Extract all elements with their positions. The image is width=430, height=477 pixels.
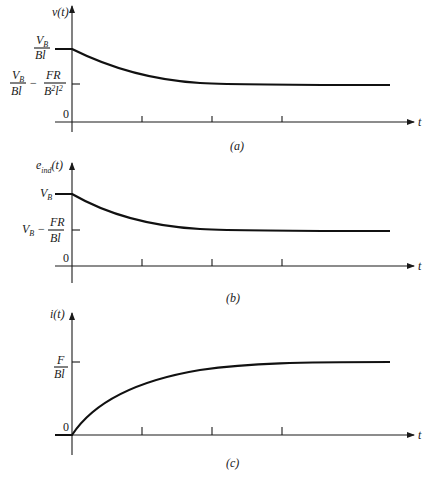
caption-a: (a) — [230, 139, 244, 153]
y-tick-label-final-a: VB Bl − FR B2l2 — [10, 68, 66, 98]
panel-c: i(t) F Bl 0 t (c) — [50, 307, 422, 470]
x-axis-label-b: t — [418, 259, 422, 273]
y-tick-label-final-b: VB − FR Bl — [22, 215, 65, 245]
svg-text:Bl: Bl — [54, 367, 65, 381]
y-tick-label-final-c: F Bl — [54, 353, 68, 381]
y-axis-label-a: v(t) — [52, 5, 69, 19]
velocity-curve — [55, 49, 390, 85]
origin-label-b: 0 — [63, 251, 69, 265]
y-tick-label-initial-a: VB Bl — [34, 33, 50, 62]
svg-text:Bl: Bl — [11, 84, 22, 98]
svg-text:Bl: Bl — [35, 48, 46, 62]
svg-text:VB: VB — [22, 222, 34, 238]
origin-label-c: 0 — [63, 420, 69, 434]
figure-canvas: v(t) VB Bl VB Bl − FR B2l2 0 t (a) eind(… — [0, 0, 430, 477]
svg-text:−: − — [38, 222, 45, 236]
caption-b: (b) — [226, 291, 240, 305]
induced-voltage-curve — [55, 194, 390, 231]
y-tick-label-initial-b: VB — [40, 186, 52, 202]
x-axis-label-c: t — [418, 428, 422, 442]
svg-text:FR: FR — [49, 215, 65, 229]
panel-b: eind(t) VB VB − FR Bl 0 t (b) — [22, 158, 422, 305]
svg-text:VB: VB — [36, 33, 48, 49]
panel-a: v(t) VB Bl VB Bl − FR B2l2 0 t (a) — [10, 5, 422, 153]
y-axis-label-c: i(t) — [50, 307, 65, 321]
origin-label-a: 0 — [63, 107, 69, 121]
current-curve — [55, 362, 390, 435]
caption-c: (c) — [226, 456, 239, 470]
svg-text:B2l2: B2l2 — [44, 84, 63, 98]
svg-text:FR: FR — [45, 68, 61, 82]
x-axis-label-a: t — [418, 115, 422, 129]
svg-text:−: − — [30, 76, 37, 90]
svg-text:F: F — [56, 353, 65, 367]
y-axis-label-b: eind(t) — [36, 158, 63, 175]
svg-text:Bl: Bl — [50, 231, 61, 245]
svg-text:VB: VB — [12, 68, 24, 84]
